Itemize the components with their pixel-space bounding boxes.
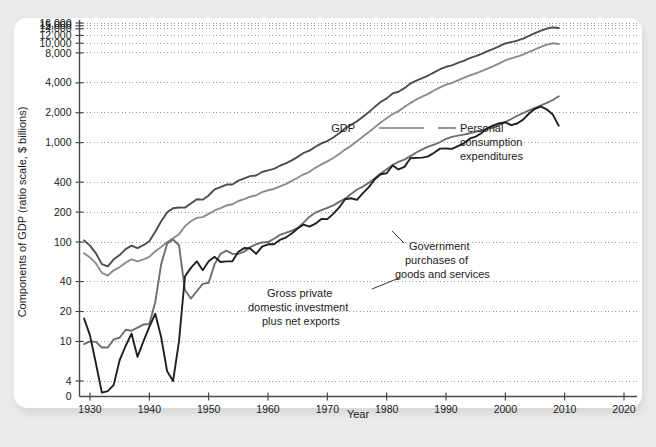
y-tick-label: 20 [60,305,72,317]
y-tick-label: 10 [60,335,72,347]
annotations: GDP Personal consumption expenditures Go… [248,122,523,327]
x-tick-label: 2000 [494,403,518,415]
annotation-pce-line2: consumption [460,136,522,148]
annotation-government-line3: goods and services [395,268,490,280]
x-tick-label: 1980 [375,403,399,415]
x-axis-title: Year [347,408,370,420]
y-tick-labels: 41020401002004001,0002,0004,0008,00010,0… [39,17,71,403]
gdp-components-figure: 41020401002004001,0002,0004,0008,00010,0… [0,0,656,447]
annotation-gdp: GDP [331,122,355,134]
y-tick-label: 1,000 [45,136,71,148]
annotation-pce-line1: Personal [460,122,503,134]
y-tick-label: 4,000 [45,76,71,88]
annotation-government-line2: purchases of [405,254,469,266]
y-tick-label: 16,000 [39,17,71,29]
x-tick-label: 2010 [553,403,577,415]
x-tick-label: 1950 [197,403,221,415]
y-tick-label: 100 [54,236,72,248]
y-tick-label: 200 [54,206,72,218]
axis-lines [80,20,638,397]
annotation-investment-line3: plus net exports [262,315,340,327]
plot-svg: 41020401002004001,0002,0004,0008,00010,0… [0,0,656,447]
annotation-government-line1: Government [409,240,470,252]
annotation-investment-line2: domestic investment [248,301,348,313]
x-tick-label: 1940 [138,403,162,415]
gridlines [80,23,638,381]
y-tick-label: 4 [66,375,72,387]
annotation-pce-line3: expenditures [460,150,523,162]
y-axis-title: Components of GDP (ratio scale, $ billio… [16,107,28,318]
y-tick-label: 40 [60,275,72,287]
y-tick-label-zero: 0 [66,390,72,402]
government-leader-line [392,231,404,243]
x-tick-label: 1930 [78,403,102,415]
x-tick-label: 1990 [434,403,458,415]
annotation-investment-line1: Gross private [267,287,332,299]
x-tick-label: 1960 [256,403,280,415]
y-tick-label: 400 [54,176,72,188]
y-tick-label: 2,000 [45,106,71,118]
x-tick-label: 2020 [612,403,636,415]
axis-titles: Year Components of GDP (ratio scale, $ b… [16,107,369,420]
chart-screenshot: 41020401002004001,0002,0004,0008,00010,0… [0,0,656,447]
data-series-lines [84,27,559,392]
x-tick-label: 1970 [316,403,340,415]
